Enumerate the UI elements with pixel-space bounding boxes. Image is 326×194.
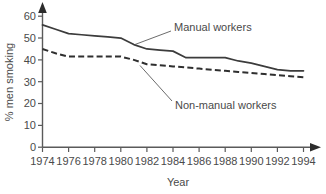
y-tick-label-0: 0 — [30, 141, 36, 153]
y-tick-label-50: 50 — [24, 32, 36, 44]
x-tick-label-1988: 1988 — [213, 155, 237, 167]
series-line-non-manual-workers — [43, 49, 304, 77]
series-label-non-manual-workers: Non-manual workers — [175, 99, 277, 111]
x-axis-arrow-icon — [310, 143, 321, 152]
series-label-manual-workers: Manual workers — [174, 21, 252, 33]
y-axis-title: % men smoking — [3, 43, 15, 121]
y-tick-label-20: 20 — [24, 97, 36, 109]
x-axis-ticks — [43, 147, 304, 152]
smoking-trend-line-chart: % men smoking 60 50 40 30 20 10 0 — [0, 0, 326, 194]
y-tick-label-60: 60 — [24, 10, 36, 22]
manual-workers-leader-line — [135, 31, 171, 45]
x-tick-label-1980: 1980 — [109, 155, 133, 167]
y-axis-ticks — [38, 16, 42, 147]
x-tick-label-1984: 1984 — [161, 155, 185, 167]
x-tick-label-1974: 1974 — [30, 155, 54, 167]
x-tick-label-1990: 1990 — [239, 155, 263, 167]
x-tick-label-1976: 1976 — [56, 155, 80, 167]
x-tick-label-1982: 1982 — [135, 155, 159, 167]
y-tick-label-30: 30 — [24, 76, 36, 88]
x-tick-label-1992: 1992 — [265, 155, 289, 167]
x-axis-title: Year — [167, 176, 190, 188]
x-tick-label-1986: 1986 — [187, 155, 211, 167]
non-manual-workers-leader-line — [140, 66, 172, 102]
y-tick-label-10: 10 — [24, 119, 36, 131]
x-tick-label-1994: 1994 — [291, 155, 315, 167]
y-axis-arrow-icon — [38, 2, 47, 13]
chart-container: % men smoking 60 50 40 30 20 10 0 — [0, 0, 326, 194]
y-tick-label-40: 40 — [24, 54, 36, 66]
x-tick-label-1978: 1978 — [82, 155, 106, 167]
series-line-manual-workers — [43, 25, 304, 71]
